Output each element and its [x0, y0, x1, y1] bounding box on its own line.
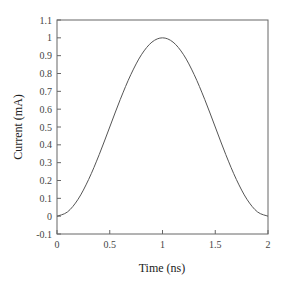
y-axis-title: Current (mA): [11, 94, 25, 160]
y-tick-label: 0.8: [40, 68, 53, 79]
x-axis-title: Time (ns): [139, 261, 186, 275]
y-tick-label: 0.9: [40, 50, 53, 61]
x-axis-ticks: 00.511.52: [55, 230, 271, 250]
x-tick-label: 1.5: [209, 239, 222, 250]
x-tick-label: 0.5: [104, 239, 117, 250]
y-tick-label: 1.1: [40, 15, 53, 26]
y-tick-label: -0.1: [36, 229, 52, 240]
x-tick-label: 0: [55, 239, 60, 250]
y-tick-label: 0.5: [40, 122, 53, 133]
current-curve: [57, 38, 268, 216]
y-tick-label: 0.1: [40, 193, 53, 204]
current-vs-time-chart: -0.100.10.20.30.40.50.60.70.80.911.1 00.…: [0, 0, 283, 286]
x-tick-label: 1: [160, 239, 165, 250]
y-tick-label: 0.3: [40, 157, 53, 168]
x-tick-label: 2: [266, 239, 271, 250]
plot-frame: [57, 20, 268, 234]
y-tick-label: 0.2: [40, 175, 53, 186]
y-tick-label: 1: [47, 32, 52, 43]
plot-area-border: [57, 20, 268, 234]
y-tick-label: 0.7: [40, 86, 53, 97]
y-tick-label: 0.6: [40, 104, 53, 115]
y-tick-label: 0: [47, 211, 52, 222]
y-tick-label: 0.4: [40, 139, 53, 150]
